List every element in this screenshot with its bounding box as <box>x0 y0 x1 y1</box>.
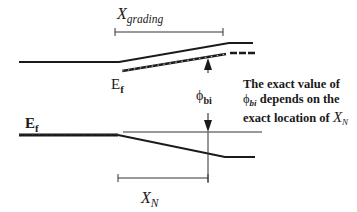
note-line-1: The exact value of <box>243 77 348 92</box>
x-grading-dimension-bar <box>115 28 223 36</box>
ef-lower-symbol: E <box>25 115 35 131</box>
note-x-symbol: X <box>333 109 342 125</box>
x-grading-label: Xgrading <box>117 6 163 26</box>
x-grading-symbol: X <box>117 5 127 22</box>
phi-bi-down-arrow-icon <box>204 113 212 132</box>
x-n-subscript: N <box>151 197 159 209</box>
x-n-label: XN <box>141 190 158 210</box>
note-line-3: exact location of XN <box>243 110 348 130</box>
note-line-2: ϕbi depends on the <box>243 92 348 111</box>
lower-fermi-level-line <box>19 134 118 135</box>
phi-bi-subscript: bi <box>203 95 211 106</box>
phi-bi-explanation-note: The exact value of ϕbi depends on the ex… <box>243 77 348 130</box>
note-line-3-text: exact location of <box>243 111 333 125</box>
ef-upper-label: Ef <box>111 77 124 95</box>
note-x-subscript: N <box>342 117 348 127</box>
upper-band-edge-line <box>19 43 253 62</box>
x-grading-subscript: grading <box>127 13 163 25</box>
upper-fermi-level-line <box>122 53 257 71</box>
ef-upper-symbol: E <box>111 76 120 92</box>
ef-upper-subscript: f <box>120 83 124 95</box>
note-line-2-text: depends on the <box>257 92 340 106</box>
phi-bi-label: ϕbi <box>196 89 212 106</box>
note-phi-symbol: ϕ <box>243 92 250 106</box>
lower-band-edge-line <box>118 135 255 157</box>
note-phi-subscript: bi <box>250 98 257 108</box>
x-n-symbol: X <box>141 189 151 206</box>
x-n-dimension-bar <box>118 174 208 182</box>
ef-lower-subscript: f <box>35 122 39 134</box>
phi-bi-up-arrow-icon <box>204 58 212 73</box>
ef-lower-label: Ef <box>25 116 39 134</box>
